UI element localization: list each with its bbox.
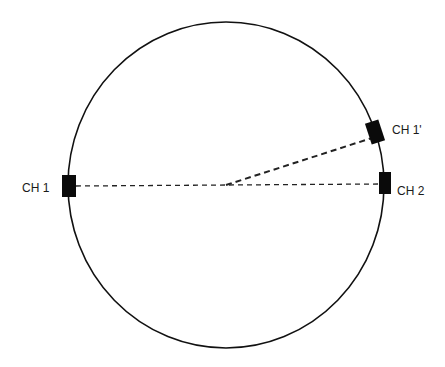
- pipe-cross-section-diagram: CH 1 CH 1' CH 2: [0, 0, 445, 367]
- label-ch1: CH 1: [22, 181, 50, 195]
- label-ch2: CH 2: [397, 184, 425, 198]
- label-ch1-prime: CH 1': [392, 123, 422, 137]
- sensor-ch1: [62, 175, 76, 197]
- sensor-ch1-prime: [365, 119, 385, 144]
- sensor-ch2: [379, 172, 391, 194]
- path-center-to-ch1-prime: [226, 138, 372, 185]
